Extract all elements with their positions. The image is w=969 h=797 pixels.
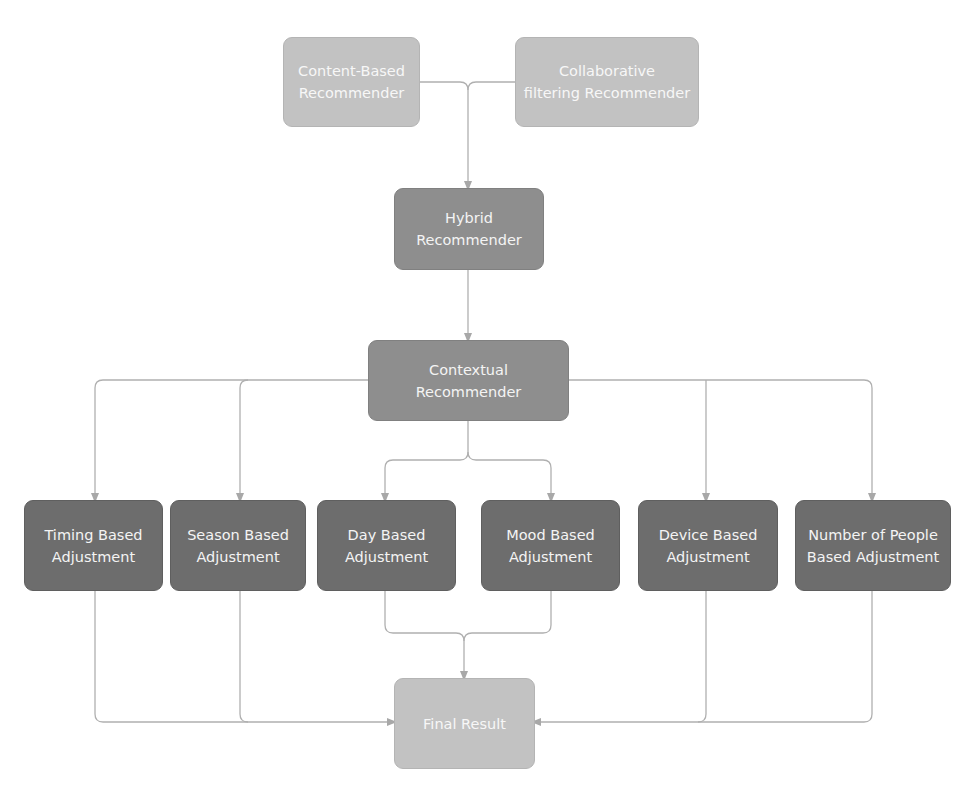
hybrid-recommender-node: Hybrid Recommender (394, 188, 544, 270)
node-label-line2: Based Adjustment (807, 546, 939, 568)
edge-contextual-to-mood (468, 452, 551, 498)
day-based-adjustment-node: Day Based Adjustment (317, 500, 456, 591)
node-label-line1: Number of People (807, 524, 939, 546)
edge-device-to-final (698, 590, 706, 722)
final-result-node: Final Result (394, 678, 535, 769)
edge-contextual-to-people (568, 380, 872, 498)
edge-contextual-to-season (240, 380, 248, 498)
node-label-line2: Adjustment (44, 546, 142, 568)
node-label-line2: Adjustment (659, 546, 758, 568)
node-label-line2: Adjustment (345, 546, 428, 568)
contextual-recommender-node: Contextual Recommender (368, 340, 569, 421)
node-label-line1: Hybrid (416, 207, 522, 229)
edge-day-to-final (385, 590, 464, 676)
node-label-line2: Recommender (416, 229, 522, 251)
node-label-line1: Content-Based (298, 60, 405, 82)
node-label: Final Result (423, 713, 506, 735)
edge-timing-to-final (95, 590, 392, 722)
edge-people-to-final (536, 590, 872, 722)
collaborative-filtering-recommender-node: Collaborative filtering Recommender (515, 37, 699, 127)
edge-contextual-to-timing (95, 380, 368, 498)
node-label-line1: Timing Based (44, 524, 142, 546)
node-label-line2: Recommender (298, 82, 405, 104)
device-based-adjustment-node: Device Based Adjustment (638, 500, 778, 591)
edge-mood-to-final (464, 590, 551, 641)
timing-based-adjustment-node: Timing Based Adjustment (24, 500, 163, 591)
content-based-recommender-node: Content-Based Recommender (283, 37, 420, 127)
node-label-line1: Season Based (187, 524, 289, 546)
node-label-line2: Adjustment (187, 546, 289, 568)
mood-based-adjustment-node: Mood Based Adjustment (481, 500, 620, 591)
node-label-line1: Device Based (659, 524, 758, 546)
season-based-adjustment-node: Season Based Adjustment (170, 500, 306, 591)
edge-collab-to-hybrid (468, 82, 515, 90)
edge-contextual-to-day (385, 420, 468, 498)
edge-season-to-final (240, 590, 248, 722)
node-label-line1: Collaborative (524, 60, 690, 82)
node-label-line2: filtering Recommender (524, 82, 690, 104)
node-label-line1: Contextual (416, 359, 522, 381)
edge-content-to-hybrid (419, 82, 468, 186)
node-label-line1: Day Based (345, 524, 428, 546)
node-label-line2: Recommender (416, 381, 522, 403)
number-of-people-based-adjustment-node: Number of People Based Adjustment (795, 500, 951, 591)
node-label-line1: Mood Based (506, 524, 595, 546)
node-label-line2: Adjustment (506, 546, 595, 568)
